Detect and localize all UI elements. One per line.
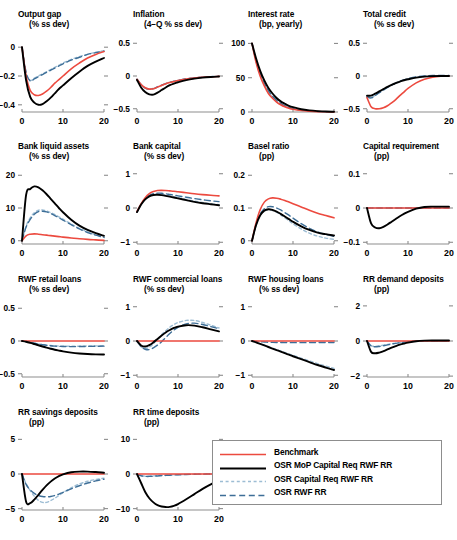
series-line: [137, 325, 219, 346]
plot-svg: [20, 36, 110, 116]
x-tick-label: 10: [173, 381, 183, 391]
panel-title: Basel ratio(pp): [230, 141, 342, 161]
series-line: [137, 474, 219, 507]
plot-svg: [365, 168, 455, 248]
x-tick-label: 0: [365, 381, 370, 391]
plot-svg: [365, 301, 455, 381]
x-tick-label: 10: [58, 248, 68, 258]
panel-title-units: (% ss dev): [18, 284, 112, 294]
panel-title-main: RR demand deposits: [363, 274, 444, 284]
panel-title-units: (% ss dev): [363, 19, 457, 29]
plot-svg: [20, 301, 110, 381]
x-tick-label: 0: [365, 248, 370, 258]
legend-line-swatch: [219, 473, 267, 484]
panel-title: RR time deposits(pp): [115, 407, 227, 427]
panel-inflation: Inflation(4−Q % ss dev)0.50−0.501020: [115, 9, 227, 29]
panel-title: RWF retail loans(% ss dev): [0, 274, 112, 294]
plot-svg: [250, 168, 340, 248]
x-tick-label: 0: [135, 514, 140, 524]
legend-item[interactable]: OSR MoP Capital Req RWF RR: [213, 459, 441, 473]
legend-label: Benchmark: [274, 447, 318, 457]
x-tick-label: 0: [250, 116, 255, 126]
plot-area: 10−101020: [252, 305, 334, 377]
y-tick-label: 0.2: [233, 170, 245, 180]
x-tick-label: 10: [58, 514, 68, 524]
y-tick-label: 5: [10, 434, 15, 444]
series-line: [22, 341, 104, 354]
y-tick-label: 10: [6, 203, 15, 213]
legend-item[interactable]: OSR RWF RR: [213, 486, 441, 500]
panel-interest-rate: Interest rate(bp, yearly)10050001020: [230, 9, 342, 29]
y-tick-label: −1: [121, 370, 130, 380]
panel-title-units: (% ss dev): [248, 284, 342, 294]
y-tick-label: 10: [121, 434, 130, 444]
panel-title-main: Bank liquid assets: [18, 141, 89, 151]
plot-area: 0.50−0.501020: [22, 305, 104, 377]
panel-title-units: (pp): [248, 151, 342, 161]
plot-svg: [250, 301, 340, 381]
series-line: [22, 234, 104, 241]
x-tick-label: 0: [20, 248, 25, 258]
x-tick-label: 20: [329, 381, 339, 391]
x-tick-label: 20: [329, 248, 339, 258]
legend-label: OSR RWF RR: [274, 487, 326, 497]
plot-area: 0.50−0.501020: [367, 40, 449, 112]
y-tick-label: 50: [236, 73, 245, 83]
panel-title-main: Interest rate: [248, 9, 294, 19]
y-tick-label: 100: [231, 38, 245, 48]
panel-rwf-housing-loans: RWF housing loans(% ss dev)10−101020: [230, 274, 342, 294]
panel-title-units: (% ss dev): [18, 19, 112, 29]
panel-title-main: RR savings deposits: [18, 407, 98, 417]
series-line: [22, 47, 104, 95]
plot-svg: [135, 301, 225, 381]
y-tick-label: −2: [351, 371, 360, 381]
series-line: [22, 472, 104, 505]
panel-title-units: (% ss dev): [133, 284, 227, 294]
series-line: [252, 43, 334, 111]
panel-title: RR savings deposits(pp): [0, 407, 112, 427]
y-tick-label: 0.5: [3, 303, 15, 313]
panel-title: Interest rate(bp, yearly): [230, 9, 342, 29]
legend-item[interactable]: OSR Capital Req RWF RR: [213, 472, 441, 486]
y-tick-label: 0: [125, 203, 130, 213]
plot-svg: [135, 168, 225, 248]
series-line: [252, 43, 334, 111]
y-tick-label: 1: [240, 302, 245, 312]
series-line: [252, 341, 334, 370]
panel-title-main: Capital requirement: [363, 141, 439, 151]
legend-line-swatch: [219, 460, 267, 471]
plot-area: 50−501020: [22, 438, 104, 510]
plot-svg: [20, 168, 110, 248]
x-tick-label: 20: [444, 381, 454, 391]
panel-title-units: (pp): [363, 151, 457, 161]
panel-title-units: (pp): [18, 417, 112, 427]
y-tick-label: 0: [10, 469, 15, 479]
x-tick-label: 0: [365, 116, 370, 126]
x-tick-label: 10: [403, 381, 413, 391]
x-tick-label: 20: [99, 514, 109, 524]
x-tick-label: 10: [288, 381, 298, 391]
panel-title-main: Output gap: [18, 9, 61, 19]
x-tick-label: 0: [250, 381, 255, 391]
x-tick-label: 20: [214, 381, 224, 391]
panel-title: Bank capital(% ss dev): [115, 141, 227, 161]
panel-capital-requirement: Capital requirement(pp)0.10−0.101020: [345, 141, 457, 161]
series-line: [252, 43, 334, 111]
y-tick-label: 0: [240, 336, 245, 346]
y-tick-label: −0.5: [344, 104, 360, 114]
panel-output-gap: Output gap(% ss dev)0−0.2−0.401020: [0, 9, 112, 29]
y-tick-label: 2: [355, 301, 360, 311]
plot-svg: [135, 36, 225, 116]
panel-title-main: RWF commercial loans: [133, 274, 222, 284]
y-tick-label: 0: [10, 42, 15, 52]
y-tick-label: 0.1: [348, 169, 360, 179]
legend-item[interactable]: Benchmark: [213, 445, 441, 459]
y-tick-label: −5: [6, 504, 15, 514]
panel-rwf-commercial-loans: RWF commercial loans(% ss dev)10−101020: [115, 274, 227, 294]
y-tick-label: −0.1: [344, 237, 360, 247]
y-tick-label: 0: [240, 107, 245, 117]
panel-title-units: (4−Q % ss dev): [133, 19, 227, 29]
x-tick-label: 0: [135, 248, 140, 258]
y-tick-label: −1: [236, 370, 245, 380]
panel-title-main: RWF retail loans: [18, 274, 81, 284]
